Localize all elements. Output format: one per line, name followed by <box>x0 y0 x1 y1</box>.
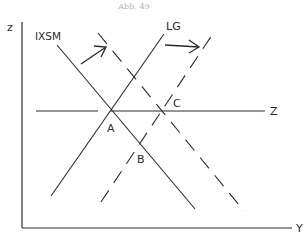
ixsm-lg-diagram: Abb. 49 z Y Z IXSM LG A B C <box>0 0 307 234</box>
lg-shift-arrow-icon <box>165 40 199 53</box>
ixsm-shift-arrow-icon <box>81 46 106 64</box>
figure-title: Abb. 49 <box>117 2 149 11</box>
x-axis-label: Y <box>295 222 303 234</box>
ixsm-label: IXSM <box>35 30 61 42</box>
point-b-label: B <box>137 153 145 166</box>
z-line-label: Z <box>270 105 278 118</box>
point-a-label: A <box>107 122 115 135</box>
y-axis-label: z <box>7 21 13 34</box>
point-c-label: C <box>173 97 181 110</box>
ixsm-shifted-curve <box>98 33 244 211</box>
ixsm-curve <box>57 45 195 209</box>
lg-label: LG <box>166 20 181 33</box>
